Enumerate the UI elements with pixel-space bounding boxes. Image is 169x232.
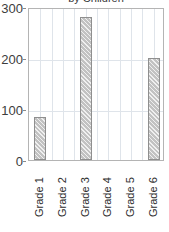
x-axis-tick: Grade 3 (73, 162, 96, 232)
bar-slot (74, 9, 97, 160)
y-axis-tick-mark (23, 8, 26, 9)
x-axis-tick: Grade 6 (141, 162, 164, 232)
x-axis-tick: Grade 4 (96, 162, 119, 232)
y-axis-tick-label: 300 (1, 2, 23, 15)
plot-area (28, 8, 164, 161)
x-axis-tick-label: Grade 3 (80, 173, 91, 218)
x-axis-tick-label: Grade 2 (57, 173, 68, 218)
bar[interactable] (80, 17, 92, 160)
bar-chart: by Children 3002001000 Grade 1Grade 2Gra… (0, 0, 169, 232)
y-axis-tick-mark (23, 59, 26, 60)
bar-series (29, 9, 163, 160)
x-axis-tick: Grade 5 (119, 162, 142, 232)
y-axis-tick-mark (23, 110, 26, 111)
bar-slot (29, 9, 52, 160)
x-axis-tick-label: Grade 6 (148, 173, 159, 218)
bar-slot (120, 9, 143, 160)
y-axis-tick-label: 200 (1, 53, 23, 66)
bar-slot (52, 9, 75, 160)
x-axis: Grade 1Grade 2Grade 3Grade 4Grade 5Grade… (28, 162, 164, 232)
y-axis-tick-label: 0 (16, 155, 23, 168)
chart-title: by Children (28, 0, 164, 5)
bar[interactable] (148, 58, 160, 160)
y-axis: 3002001000 (0, 0, 26, 232)
x-axis-tick-label: Grade 5 (125, 173, 136, 218)
bar-slot (97, 9, 120, 160)
x-axis-tick: Grade 1 (28, 162, 51, 232)
bar-slot (142, 9, 164, 160)
x-axis-tick: Grade 2 (51, 162, 74, 232)
y-axis-tick-label: 100 (1, 104, 23, 117)
bar[interactable] (34, 117, 46, 160)
x-axis-tick-label: Grade 4 (102, 173, 113, 218)
x-axis-tick-label: Grade 1 (34, 173, 45, 218)
y-axis-tick-mark (23, 161, 26, 162)
